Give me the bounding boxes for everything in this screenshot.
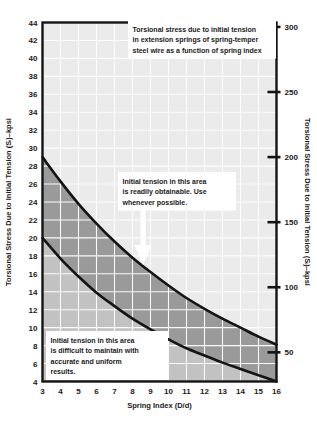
y-axis-right-tick-label: 150 <box>285 218 299 227</box>
y-axis-left-tick-label: 42 <box>29 36 38 45</box>
y-axis-left-tick-label: 8 <box>33 342 38 351</box>
y-axis-left-tick-label: 12 <box>29 306 38 315</box>
title-callout-line: Torsional stress due to initial tension <box>133 26 257 33</box>
y-axis-right-tick-label: 300 <box>285 23 299 32</box>
spring-index-chart: 4681012141618202224262830323436384042445… <box>0 0 317 421</box>
difficult-callout-line: is difficult to maintain with <box>51 347 139 354</box>
x-axis-tick-label: 6 <box>94 387 99 396</box>
y-axis-left-tick-label: 4 <box>33 378 38 387</box>
x-axis-tick-label: 13 <box>218 387 227 396</box>
title-callout-line: steel wire as a function of spring index <box>133 47 262 55</box>
chart-container: 4681012141618202224262830323436384042445… <box>0 0 317 421</box>
y-axis-left-tick-label: 26 <box>29 180 38 189</box>
y-axis-right-tick-label: 200 <box>285 153 299 162</box>
y-axis-right-title: Torsional Stress Due to Initial Tension … <box>303 118 312 286</box>
y-axis-left-tick-label: 14 <box>29 288 38 297</box>
x-axis-tick-label: 15 <box>254 387 263 396</box>
difficult-callout: Initial tension in this areais difficult… <box>46 331 168 380</box>
x-axis-tick-label: 9 <box>148 387 153 396</box>
x-axis-tick-label: 7 <box>112 387 117 396</box>
y-axis-left-tick-label: 28 <box>29 162 38 171</box>
difficult-callout-line: results. <box>51 368 76 375</box>
title-callout: Torsional stress due to initial tensioni… <box>128 20 276 59</box>
x-axis-tick-label: 11 <box>182 387 191 396</box>
x-axis-tick-label: 5 <box>76 387 81 396</box>
y-axis-left-tick-label: 38 <box>29 72 38 81</box>
x-axis-tick-label: 8 <box>130 387 135 396</box>
y-axis-right-tick-label: 100 <box>285 283 299 292</box>
y-axis-left-tick-label: 32 <box>29 126 38 135</box>
y-axis-left-tick-label: 40 <box>29 54 38 63</box>
y-axis-left-ticks: 468101214161820222426283032343638404244 <box>29 19 38 387</box>
arrow-shaft <box>141 205 146 250</box>
y-axis-left-tick-label: 44 <box>29 19 38 28</box>
title-callout-line: in extension springs of spring-temper <box>133 36 259 44</box>
y-axis-left-tick-label: 6 <box>33 360 38 369</box>
difficult-callout-line: Initial tension in this area <box>51 337 135 344</box>
y-axis-right-tick-label: 50 <box>285 348 294 357</box>
y-axis-left-tick-label: 24 <box>29 198 38 207</box>
y-axis-left-tick-label: 22 <box>29 216 38 225</box>
x-axis-tick-label: 12 <box>200 387 209 396</box>
x-axis-tick-label: 16 <box>272 387 281 396</box>
y-axis-left-tick-label: 36 <box>29 90 38 99</box>
y-axis-left-tick-label: 10 <box>29 324 38 333</box>
x-axis-tick-label: 3 <box>40 387 45 396</box>
difficult-callout-line: accurate and uniform <box>51 358 122 365</box>
x-axis-tick-label: 14 <box>236 387 245 396</box>
readily-obtainable-callout-line: Initial tension in this area <box>123 178 207 185</box>
readily-obtainable-callout: Initial tension in this areais readily o… <box>118 172 236 211</box>
y-axis-left-tick-label: 20 <box>29 234 38 243</box>
readily-obtainable-callout-line: is readily obtainable. Use <box>123 188 207 196</box>
x-axis-title: Spring Index (D/d) <box>127 401 192 410</box>
y-axis-left-title: Torsional Stress Due to Initial Tension … <box>4 118 13 286</box>
y-axis-left-tick-label: 30 <box>29 144 38 153</box>
x-axis-tick-label: 4 <box>58 387 63 396</box>
y-axis-left-tick-label: 16 <box>29 270 38 279</box>
x-axis-tick-label: 10 <box>164 387 173 396</box>
y-axis-left-tick-label: 34 <box>29 108 38 117</box>
readily-obtainable-callout-line: whenever possible. <box>122 199 188 207</box>
y-axis-left-tick-label: 18 <box>29 252 38 261</box>
y-axis-right-tick-label: 250 <box>285 88 299 97</box>
